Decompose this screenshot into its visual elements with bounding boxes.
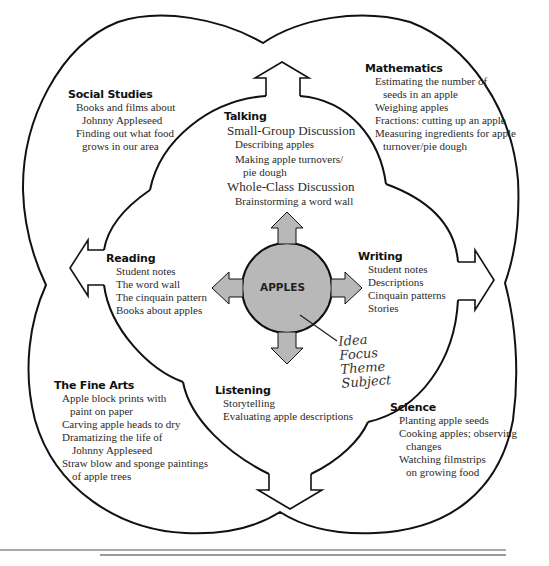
section-social-studies: Social Studies Books and films about Joh… (68, 88, 175, 153)
hub-label: APPLES (260, 281, 305, 293)
section-item: Johnny Appleseed (72, 444, 208, 457)
section-listening: Listening Storytelling Evaluating apple … (215, 384, 353, 423)
section-item: Finding out what food (76, 127, 175, 140)
section-item: grows in our area (82, 140, 175, 153)
section-item: Weighing apples (375, 101, 516, 114)
section-item: Descriptions (368, 276, 446, 289)
section-heading: Social Studies (68, 88, 175, 101)
section-mathematics: Mathematics Estimating the number of see… (365, 62, 516, 153)
section-item: Stories (368, 302, 446, 315)
section-heading: Listening (215, 384, 353, 397)
section-item: pie dough (243, 166, 355, 179)
section-item: turnover/pie dough (383, 140, 516, 153)
section-item: The cinquain pattern (116, 291, 207, 304)
section-item: Small-Group Discussion (227, 123, 355, 138)
section-item: Student notes (368, 263, 446, 276)
section-item: Measuring ingredients for apple (375, 127, 516, 140)
section-item: Cooking apples; observing (399, 427, 517, 440)
section-heading: Science (390, 401, 517, 414)
section-heading: The Fine Arts (54, 379, 208, 392)
section-heading: Mathematics (365, 62, 516, 75)
hub-arrow-up-icon (271, 212, 303, 244)
section-item: Evaluating apple descriptions (223, 410, 353, 423)
section-writing: Writing Student notes Descriptions Cinqu… (358, 250, 446, 315)
hub-arrow-left-icon (212, 272, 243, 304)
section-item: Describing apples (235, 138, 355, 151)
section-item: Student notes (116, 265, 207, 278)
section-item: Cinquain patterns (368, 289, 446, 302)
arrow-down-icon (258, 474, 322, 509)
section-item: on growing food (406, 466, 517, 479)
handwritten-annotation: Idea Focus Theme Subject (338, 331, 392, 390)
section-heading: Writing (358, 250, 446, 263)
section-item: Books and films about (76, 101, 175, 114)
section-item: Planting apple seeds (399, 414, 517, 427)
section-fine-arts: The Fine Arts Apple block prints with pa… (54, 379, 208, 483)
section-item: Johnny Appleseed (82, 114, 175, 127)
section-item: Books about apples (116, 304, 207, 317)
section-item: changes (406, 440, 517, 453)
section-science: Science Planting apple seeds Cooking app… (390, 401, 517, 479)
arrow-right-icon (458, 250, 494, 310)
section-reading: Reading Student notes The word wall The … (106, 252, 207, 317)
section-item: Apple block prints with (62, 392, 208, 405)
section-item: Storytelling (223, 397, 353, 410)
section-item: Estimating the number of (375, 75, 516, 88)
section-item: of apple trees (72, 470, 208, 483)
arrow-up-icon (255, 62, 309, 96)
section-item: Carving apple heads to dry (62, 418, 208, 431)
arrow-left-icon (70, 240, 104, 296)
section-item: Brainstorming a word wall (235, 195, 355, 208)
section-item: Watching filmstrips (399, 453, 517, 466)
section-item: Making apple turnovers/ (235, 153, 355, 166)
section-item: seeds in an apple (383, 88, 516, 101)
section-item: Dramatizing the life of (62, 431, 208, 444)
hub-arrow-down-icon (271, 332, 303, 364)
section-item: The word wall (116, 278, 207, 291)
section-item: Whole-Class Discussion (227, 179, 355, 194)
section-item: Straw blow and sponge paintings (62, 457, 208, 470)
section-talking: Talking Small-Group Discussion Describin… (224, 110, 355, 208)
section-heading: Reading (106, 252, 207, 265)
section-item: paint on paper (70, 405, 208, 418)
section-item: Fractions: cutting up an apple (375, 114, 516, 127)
section-heading: Talking (224, 110, 355, 123)
